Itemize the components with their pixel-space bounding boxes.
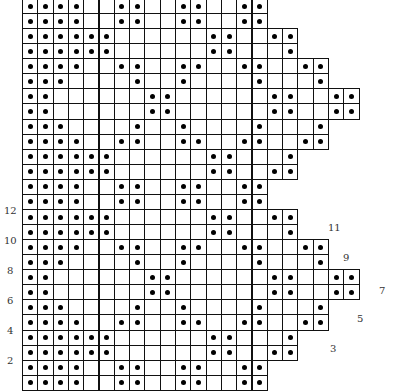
filled-dot-icon <box>196 4 201 9</box>
filled-dot-icon <box>43 19 48 24</box>
space-cell <box>282 299 298 315</box>
block-cell <box>53 0 69 14</box>
space-cell <box>221 179 237 195</box>
filled-dot-icon <box>242 19 247 24</box>
space-cell <box>297 73 313 89</box>
block-cell <box>282 28 298 44</box>
block-cell <box>236 134 252 150</box>
filled-dot-icon <box>181 19 186 24</box>
filled-dot-icon <box>28 335 33 340</box>
block-cell <box>282 269 298 285</box>
space-cell <box>99 284 115 300</box>
block-cell <box>282 330 298 346</box>
filled-dot-icon <box>242 320 247 325</box>
block-cell <box>252 73 268 89</box>
filled-dot-icon <box>43 109 48 114</box>
block-cell <box>129 314 145 330</box>
filled-dot-icon <box>181 305 186 310</box>
filled-dot-icon <box>242 365 247 370</box>
block-cell <box>114 0 130 14</box>
filled-dot-icon <box>288 335 293 340</box>
row-number-label: 8 <box>7 266 13 276</box>
filled-dot-icon <box>74 49 79 54</box>
filled-dot-icon <box>74 4 79 9</box>
block-cell <box>83 149 99 165</box>
filled-dot-icon <box>119 19 124 24</box>
filled-dot-icon <box>135 260 140 265</box>
filled-dot-icon <box>303 64 308 69</box>
block-cell <box>53 28 69 44</box>
filled-dot-icon <box>74 184 79 189</box>
block-cell <box>206 209 222 225</box>
block-cell <box>37 284 53 300</box>
block-cell <box>37 73 53 89</box>
block-cell <box>221 330 237 346</box>
space-cell <box>114 209 130 225</box>
space-cell <box>190 103 206 119</box>
block-cell <box>114 194 130 210</box>
filled-dot-icon <box>211 34 216 39</box>
space-cell <box>129 164 145 180</box>
block-cell <box>22 194 38 210</box>
filled-dot-icon <box>28 380 33 385</box>
space-cell <box>83 0 99 14</box>
block-cell <box>190 0 206 14</box>
filled-dot-icon <box>28 305 33 310</box>
block-cell <box>99 209 115 225</box>
block-cell <box>252 179 268 195</box>
space-cell <box>297 269 313 285</box>
space-cell <box>236 209 252 225</box>
row-number-label: 11 <box>328 223 341 233</box>
space-cell <box>175 209 191 225</box>
filled-dot-icon <box>257 260 262 265</box>
space-cell <box>83 73 99 89</box>
filled-dot-icon <box>272 290 277 295</box>
space-cell <box>99 58 115 74</box>
filled-dot-icon <box>119 365 124 370</box>
block-cell <box>68 194 84 210</box>
space-cell <box>114 299 130 315</box>
filled-dot-icon <box>196 320 201 325</box>
filled-dot-icon <box>227 230 232 235</box>
space-cell <box>144 360 160 376</box>
space-cell <box>160 314 176 330</box>
block-cell <box>236 194 252 210</box>
space-cell <box>190 209 206 225</box>
space-cell <box>160 194 176 210</box>
block-cell <box>221 224 237 240</box>
space-cell <box>236 103 252 119</box>
block-cell <box>282 149 298 165</box>
space-cell <box>83 360 99 376</box>
space-cell <box>297 103 313 119</box>
filled-dot-icon <box>288 290 293 295</box>
space-cell <box>160 375 176 391</box>
space-cell <box>236 88 252 104</box>
space-cell <box>160 43 176 59</box>
space-cell <box>144 13 160 29</box>
filled-dot-icon <box>242 184 247 189</box>
filled-dot-icon <box>58 154 63 159</box>
filled-dot-icon <box>150 275 155 280</box>
filled-dot-icon <box>135 124 140 129</box>
filled-dot-icon <box>104 335 109 340</box>
space-cell <box>297 254 313 270</box>
filled-dot-icon <box>227 169 232 174</box>
space-cell <box>114 73 130 89</box>
space-cell <box>236 164 252 180</box>
space-cell <box>83 254 99 270</box>
space-cell <box>144 179 160 195</box>
filled-dot-icon <box>272 350 277 355</box>
block-cell <box>206 28 222 44</box>
filled-dot-icon <box>28 215 33 220</box>
filled-dot-icon <box>211 335 216 340</box>
space-cell <box>99 88 115 104</box>
block-cell <box>99 149 115 165</box>
filled-dot-icon <box>58 124 63 129</box>
filled-dot-icon <box>89 49 94 54</box>
space-cell <box>190 330 206 346</box>
block-cell <box>53 239 69 255</box>
block-cell <box>37 164 53 180</box>
filled-dot-icon <box>28 79 33 84</box>
filled-dot-icon <box>150 290 155 295</box>
filled-dot-icon <box>43 290 48 295</box>
